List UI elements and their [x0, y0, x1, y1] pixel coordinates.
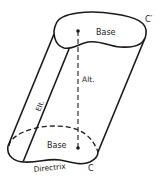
- right-generator-line: [98, 38, 145, 152]
- bottom-curve-label: C: [88, 164, 94, 173]
- bottom-base-label: Base: [47, 141, 67, 150]
- top-base-label: Base: [96, 28, 116, 37]
- bottom-altitude-point: [76, 146, 80, 150]
- oblique-cylinder-diagram: Base C′ Alt. Elt. Base Directrix C: [0, 0, 162, 183]
- altitude-label: Alt.: [82, 75, 95, 84]
- top-curve-label: C′: [145, 15, 153, 24]
- top-altitude-point: [76, 29, 80, 33]
- directrix-label: Directrix: [33, 162, 66, 174]
